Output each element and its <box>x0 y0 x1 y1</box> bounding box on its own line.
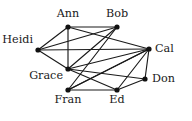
graph-edge-bob-heidi <box>38 27 117 50</box>
graph-vertex-label-heidi: Heidi <box>2 33 33 46</box>
graph-vertex-label-grace: Grace <box>29 69 63 82</box>
graph-vertex-don <box>142 76 147 81</box>
graph-vertex-grace <box>65 66 70 71</box>
graph-vertex-heidi <box>35 47 40 52</box>
graph-edge-fran-cal <box>68 49 149 90</box>
graph-vertex-fran <box>65 87 70 92</box>
graph-edge-ann-heidi <box>38 27 68 50</box>
graph-vertex-bob <box>114 24 119 29</box>
vertex-layer <box>35 24 151 92</box>
graph-vertex-ann <box>65 24 70 29</box>
graph-vertex-ed <box>114 87 119 92</box>
graph-vertex-label-ed: Ed <box>109 93 124 106</box>
graph-vertex-label-don: Don <box>152 72 175 85</box>
graph-vertex-label-fran: Fran <box>55 93 82 106</box>
graph-vertex-cal <box>146 46 151 51</box>
graph-diagram: AnnBobHeidiCalGraceDonFranEd <box>0 0 192 121</box>
label-layer: AnnBobHeidiCalGraceDonFranEd <box>2 7 175 106</box>
graph-vertex-label-cal: Cal <box>155 42 174 55</box>
graph-canvas: AnnBobHeidiCalGraceDonFranEd <box>0 0 192 121</box>
graph-edge-heidi-cal <box>38 49 149 50</box>
graph-vertex-label-bob: Bob <box>106 7 128 20</box>
graph-vertex-label-ann: Ann <box>56 7 80 20</box>
graph-edge-heidi-grace <box>38 50 68 69</box>
